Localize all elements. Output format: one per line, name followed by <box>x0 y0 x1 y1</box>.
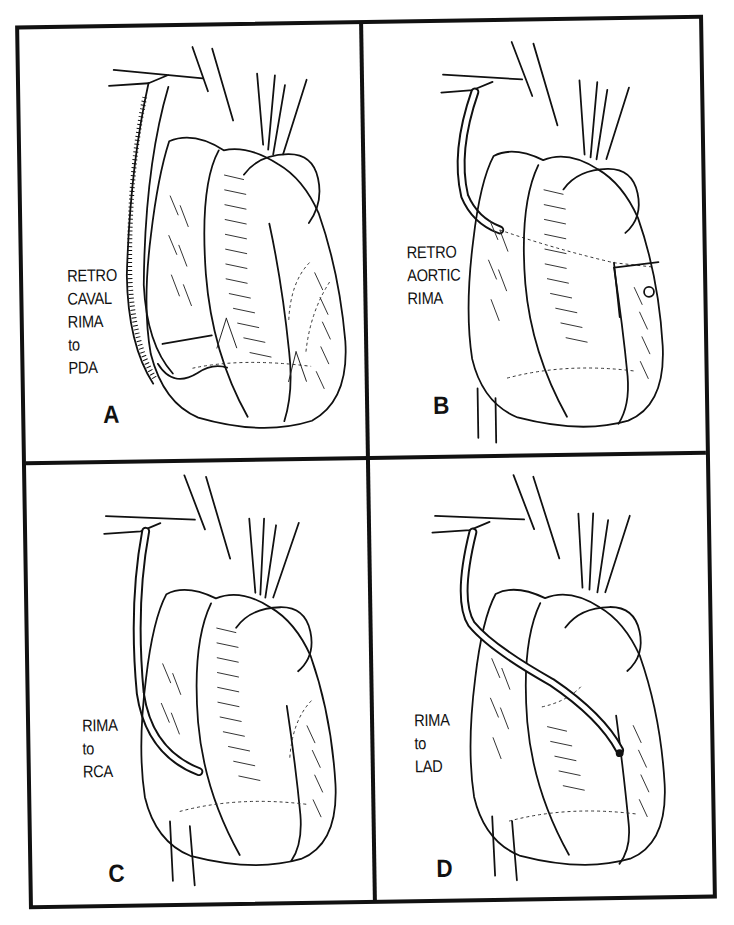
panel-grid: RETRO CAVAL RIMA to PDA A <box>19 19 713 906</box>
panel-a: RETRO CAVAL RIMA to PDA A <box>19 24 370 465</box>
caption-line: PDA <box>68 356 118 380</box>
panel-c-caption: RIMA to RCA <box>82 714 119 784</box>
heart-outline <box>139 588 337 867</box>
panel-a-letter: A <box>103 400 120 429</box>
hatching <box>168 173 331 391</box>
panel-b: RETRO AORTIC RIMA B <box>363 19 706 460</box>
caption-line: to <box>82 737 118 761</box>
caption-line: LAD <box>415 755 451 779</box>
figure-frame: RETRO CAVAL RIMA to PDA A <box>15 15 717 910</box>
panel-c: RIMA to RCA C <box>26 460 377 905</box>
panel-c-letter: C <box>108 859 125 888</box>
rima-graft <box>460 89 659 319</box>
heart-illustration-retrocaval <box>19 24 366 461</box>
branches <box>216 317 306 383</box>
caption-line: AORTIC <box>407 263 461 287</box>
caption-line: to <box>68 333 118 357</box>
caption-line: to <box>414 732 450 756</box>
ivc <box>478 388 497 443</box>
caption-line: RIMA <box>68 310 118 334</box>
heart-illustration-rima-lad <box>370 455 713 900</box>
panel-d: RIMA to LAD D <box>370 455 713 900</box>
heart-illustration-rima-rca <box>26 460 373 905</box>
rima-graft <box>136 530 199 772</box>
panel-a-caption: RETRO CAVAL RIMA to PDA <box>67 264 119 380</box>
ivc <box>170 821 195 886</box>
ivc <box>492 816 517 881</box>
caption-line: RCA <box>83 760 119 784</box>
caption-line: RIMA <box>414 709 450 733</box>
panel-d-letter: D <box>436 854 453 883</box>
panel-b-letter: B <box>433 391 450 420</box>
caption-line: RIMA <box>407 286 461 310</box>
caption-line: RETRO <box>67 264 117 288</box>
panel-d-caption: RIMA to LAD <box>414 709 451 779</box>
rima-graft <box>463 530 624 760</box>
caption-line: RETRO <box>407 240 461 264</box>
caption-line: CAVAL <box>67 287 117 311</box>
great-vessels <box>103 474 300 601</box>
heart-outline <box>468 587 666 866</box>
caption-line: RIMA <box>82 714 118 738</box>
heart-outline <box>466 149 664 428</box>
heart-illustration-retroaortic <box>363 19 706 456</box>
panel-b-caption: RETRO AORTIC RIMA <box>407 240 462 310</box>
